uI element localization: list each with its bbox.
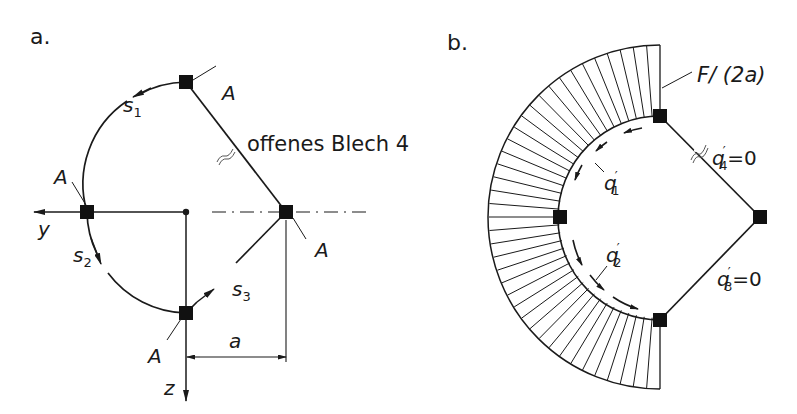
arc-s2-lower (108, 273, 186, 313)
figure-canvas: a. a (0, 0, 797, 414)
node-b-left (553, 210, 567, 224)
node-top-label: A (220, 81, 236, 105)
y-axis-label: y (37, 217, 51, 241)
shear-flow-band (488, 45, 660, 389)
panel-b-label: b. (447, 30, 468, 55)
q4-label: q′4=0 (712, 143, 757, 173)
s2-label: s2 (73, 243, 92, 270)
node-right (279, 205, 293, 219)
node-right-label: A (313, 238, 329, 262)
node-b-right (753, 210, 767, 224)
band-inner-arc (558, 116, 660, 320)
s1-direction-arrow (133, 88, 151, 97)
node-b-top (653, 109, 667, 123)
node-left (80, 205, 94, 219)
dimension-a-label: a (229, 329, 241, 353)
node-top (179, 75, 193, 89)
q3-label: q′3=0 (717, 264, 762, 294)
s3-label: s3 (232, 277, 251, 304)
arc-s1-upper (138, 82, 186, 95)
node-bottom-label: A (146, 344, 162, 368)
z-axis-label: z (163, 376, 175, 400)
load-label: F/ (2a) (697, 63, 765, 87)
node-b-bottom (653, 313, 667, 327)
panel-a: a. a (30, 24, 409, 401)
q2-label: q′2 (606, 240, 621, 270)
open-sheet-annotation: offenes Blech 4 (247, 132, 409, 156)
panel-b: b. F/ (2a) q′1 q′2 (447, 30, 767, 389)
node-bottom (179, 306, 193, 320)
segment-s3-upper (236, 212, 286, 263)
s2-direction-arrow (91, 238, 101, 264)
panel-a-label: a. (30, 24, 50, 49)
q1-label: q′1 (604, 168, 619, 198)
band-hatch-lines (489, 46, 652, 389)
arc-s1-lower (83, 101, 127, 212)
node-left-label: A (52, 165, 68, 189)
s3-direction-arrow (197, 289, 214, 302)
origin-point (183, 209, 189, 215)
s1-label: s1 (123, 93, 142, 120)
